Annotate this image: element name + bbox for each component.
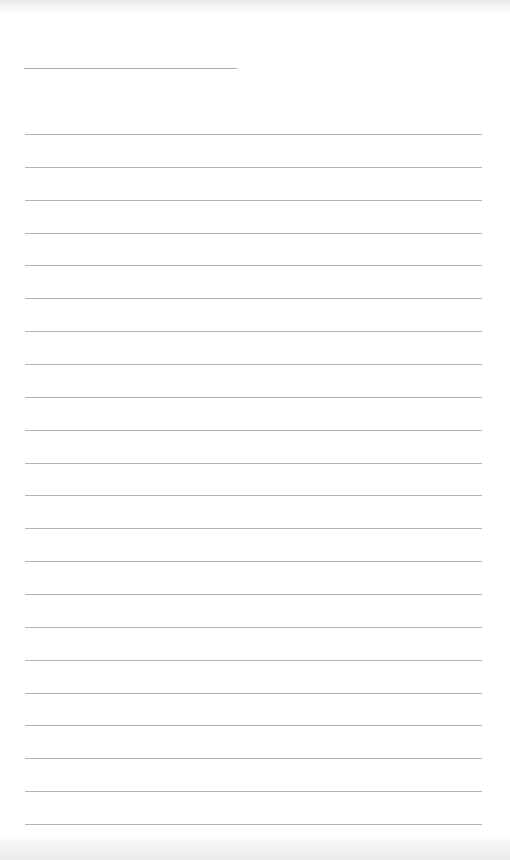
ruled-line <box>25 824 482 825</box>
bottom-edge-shadow <box>0 834 510 860</box>
ruled-line <box>25 167 482 168</box>
ruled-line <box>25 331 482 332</box>
ruled-line <box>25 364 482 365</box>
ruled-line <box>25 758 482 759</box>
ruled-line <box>25 265 482 266</box>
title-line <box>24 68 237 69</box>
ruled-line <box>25 561 482 562</box>
ruled-line <box>25 134 482 135</box>
ruled-line <box>25 594 482 595</box>
ruled-line <box>25 430 482 431</box>
ruled-line <box>25 200 482 201</box>
ruled-line <box>25 693 482 694</box>
ruled-line <box>25 298 482 299</box>
ruled-line <box>25 495 482 496</box>
ruled-line <box>25 791 482 792</box>
top-edge-shadow <box>0 0 510 14</box>
ruled-line <box>25 397 482 398</box>
ruled-line <box>25 660 482 661</box>
notepad-page <box>0 0 510 860</box>
ruled-line <box>25 463 482 464</box>
ruled-line <box>25 627 482 628</box>
ruled-line <box>25 725 482 726</box>
ruled-line <box>25 528 482 529</box>
ruled-line <box>25 233 482 234</box>
